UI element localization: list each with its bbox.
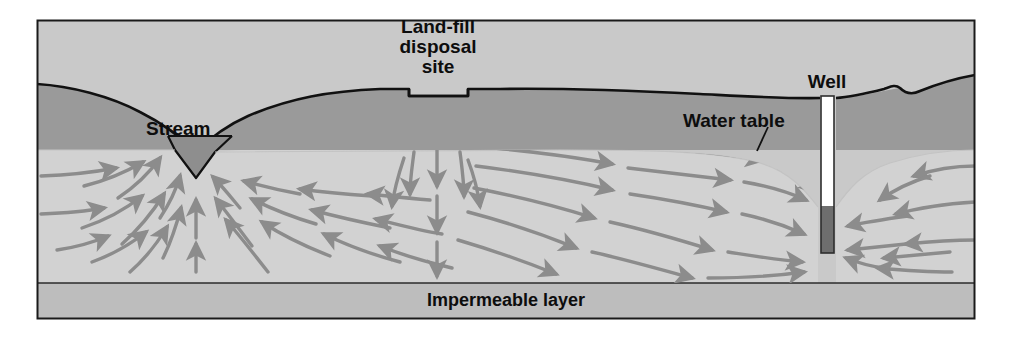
cross-section-layers — [37, 20, 975, 319]
landfill-label-line3: site — [422, 56, 455, 77]
water-table-label: Water table — [683, 110, 785, 131]
well-water-column — [821, 206, 834, 253]
landfill-label-line1: Land-fill — [401, 16, 475, 37]
impermeable-layer-label: Impermeable layer — [427, 290, 585, 310]
stream-label: Stream — [146, 118, 210, 139]
figure-canvas: Stream Land-fill disposal site Well Wate… — [0, 0, 1020, 339]
landfill-label-line2: disposal — [399, 36, 476, 57]
well-label: Well — [808, 71, 847, 92]
groundwater-flow-figure: Stream Land-fill disposal site Well Wate… — [0, 0, 1020, 339]
